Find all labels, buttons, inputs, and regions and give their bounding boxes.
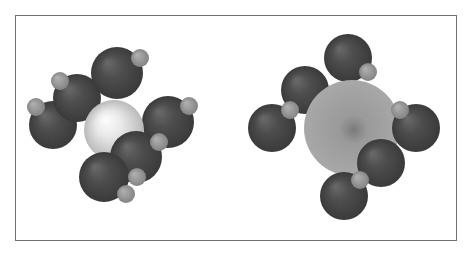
right-molecule: [248, 34, 440, 220]
small-atom-lower-right: [150, 133, 168, 151]
molecule-canvas: [0, 0, 475, 256]
small-atom-bottom-right: [128, 168, 146, 186]
small-atom-upper-left: [51, 72, 69, 90]
small-atom-top: [131, 49, 149, 67]
small-atom-upper-left: [281, 101, 299, 119]
left-molecule: [27, 47, 198, 203]
small-atom-right: [180, 97, 198, 115]
molecules-layer: [27, 34, 440, 220]
small-atom-bottom: [117, 185, 135, 203]
small-atom-top-right: [359, 63, 377, 81]
molecular-figure: [0, 0, 475, 256]
small-atom-left: [27, 98, 45, 116]
small-atom-right: [391, 101, 409, 119]
small-atom-lower-right: [351, 171, 369, 189]
